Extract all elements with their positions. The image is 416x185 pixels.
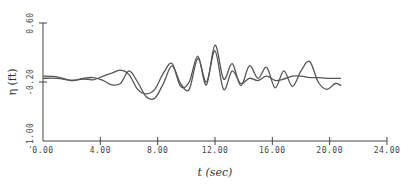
- x-tick-label: 16.00: [259, 146, 286, 155]
- y-tick-label-mid: -0.20: [26, 69, 35, 96]
- x-tick-label: 4.00: [90, 146, 111, 155]
- x-tick-label: 0.00: [32, 146, 53, 155]
- line-chart: 0.004.008.0012.0016.0020.0024.00 0.60 -0…: [0, 0, 416, 185]
- x-tick-label: 12.00: [202, 146, 229, 155]
- x-tick-label: 24.00: [374, 146, 401, 155]
- y-tick-label-top: 0.60: [26, 12, 35, 33]
- y-tick-label-bottom: -1.00: [26, 123, 35, 150]
- x-ticks: 0.004.008.0012.0016.0020.0024.00: [32, 137, 400, 155]
- y-axis-title: η (ft): [6, 68, 19, 95]
- x-tick-label: 8.00: [147, 146, 168, 155]
- series-2-line: [43, 45, 341, 94]
- x-tick-label: 20.00: [316, 146, 343, 155]
- x-axis-title: t (sec): [198, 166, 233, 179]
